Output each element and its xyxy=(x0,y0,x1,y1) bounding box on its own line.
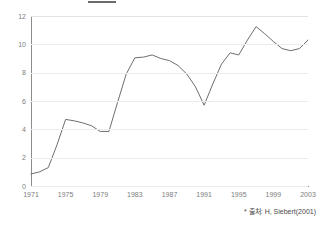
y-tick-label-0: 0 xyxy=(4,183,26,190)
y-tick-label-12: 12 xyxy=(4,13,26,20)
title-underline-rule xyxy=(88,1,116,3)
x-tick-label-1987: 1987 xyxy=(155,191,185,198)
chart-container: * 출처: H, Siebert(2001) 02468101219711975… xyxy=(0,0,325,229)
y-tick-label-6: 6 xyxy=(4,98,26,105)
x-tick-label-2003: 2003 xyxy=(293,191,323,198)
x-tick-label-1991: 1991 xyxy=(189,191,219,198)
gridline-y-0 xyxy=(31,186,308,187)
chart-title xyxy=(0,0,325,1)
gridline-y-8 xyxy=(31,73,308,74)
x-tick-label-1983: 1983 xyxy=(120,191,150,198)
plot-area xyxy=(31,16,308,186)
y-tick-label-2: 2 xyxy=(4,154,26,161)
x-tick-label-1979: 1979 xyxy=(85,191,115,198)
gridline-y-12 xyxy=(31,16,308,17)
y-tick-label-4: 4 xyxy=(4,126,26,133)
x-tick-label-1999: 1999 xyxy=(258,191,288,198)
y-tick-label-8: 8 xyxy=(4,69,26,76)
source-note: * 출처: H, Siebert(2001) xyxy=(244,207,316,216)
source-asterisk: * xyxy=(244,208,247,215)
gridline-y-2 xyxy=(31,158,308,159)
source-text: 출처: H, Siebert(2001) xyxy=(249,208,316,215)
gridline-y-10 xyxy=(31,44,308,45)
gridline-y-6 xyxy=(31,101,308,102)
gridline-y-4 xyxy=(31,129,308,130)
x-tick-label-1975: 1975 xyxy=(51,191,81,198)
x-tick-label-1971: 1971 xyxy=(16,191,46,198)
x-tick-label-1995: 1995 xyxy=(224,191,254,198)
y-tick-label-10: 10 xyxy=(4,41,26,48)
